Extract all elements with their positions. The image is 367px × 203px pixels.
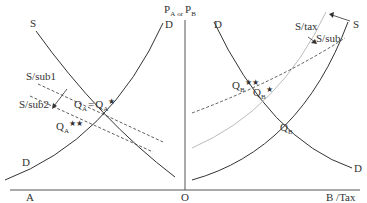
left-shift-arrow	[54, 89, 67, 106]
left-supply-curve	[36, 31, 175, 177]
right-tax-curve	[192, 12, 326, 148]
origin-label: O	[181, 191, 189, 203]
right-sub-curve	[192, 38, 345, 113]
left-axis-label: A	[26, 191, 34, 203]
left-equilibrium2-label: QA★★	[56, 119, 83, 135]
left-demand-bottom-label: D	[22, 156, 30, 168]
right-demand-bottom-label: D	[354, 162, 362, 174]
supply-demand-diagram: S D D S/sub1 S/sub2 QA=QA★ QA★★ S D D S/…	[0, 0, 367, 203]
right-demand-top-label: D	[214, 18, 222, 30]
right-supply-label: S	[353, 18, 359, 30]
right-equilibrium-label: QB	[280, 121, 293, 136]
left-sub2-label: S/sub2	[19, 98, 49, 110]
right-sub-label: S/sub	[316, 32, 341, 44]
vertical-axis-label: PAorPB	[164, 3, 196, 18]
left-arrowhead-icon	[52, 103, 57, 109]
right-tax-label: S/tax	[295, 20, 318, 32]
right-equilibrium-star-label: QB★	[253, 85, 273, 101]
left-demand-top-label: D	[165, 18, 173, 30]
left-sub1-label: S/sub1	[26, 70, 56, 82]
right-axis-label: B /Tax	[326, 191, 356, 203]
right-tax-arrowhead-icon	[329, 12, 334, 18]
left-sub1-curve	[38, 84, 163, 142]
left-supply-label: S	[30, 17, 36, 29]
right-tax-arrow	[332, 15, 350, 21]
